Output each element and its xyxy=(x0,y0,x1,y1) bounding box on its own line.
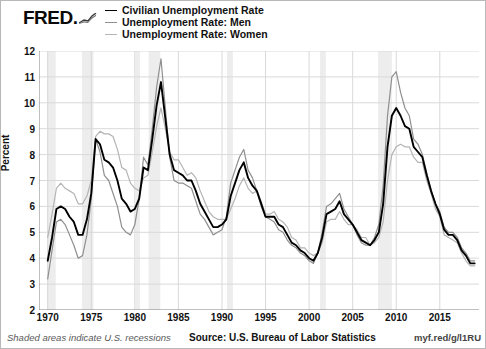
x-tick-label: 2015 xyxy=(429,312,451,323)
y-tick-label: 5 xyxy=(17,227,35,238)
trend-up-icon xyxy=(79,13,97,24)
y-axis-label: Percent xyxy=(0,135,11,172)
x-tick-label: 1970 xyxy=(37,312,59,323)
recession-note: Shaded areas indicate U.S. recessions xyxy=(7,332,171,343)
chart-legend: Civilian Unemployment RateUnemployment R… xyxy=(105,4,268,41)
legend-label: Unemployment Rate: Women xyxy=(122,28,268,40)
x-tick-label: 2000 xyxy=(298,312,320,323)
y-tick-label: 9 xyxy=(17,123,35,134)
legend-item: Civilian Unemployment Rate xyxy=(105,4,268,16)
x-tick-label: 1980 xyxy=(124,312,146,323)
chart-footer: Shaded areas indicate U.S. recessions So… xyxy=(1,332,486,348)
y-tick-label: 6 xyxy=(17,201,35,212)
x-tick-label: 2005 xyxy=(342,312,364,323)
y-tick-label: 11 xyxy=(17,71,35,82)
y-tick-label: 3 xyxy=(17,279,35,290)
plot-canvas xyxy=(39,51,479,310)
x-tick-label: 1990 xyxy=(211,312,233,323)
y-tick-label: 2 xyxy=(17,305,35,316)
series-line xyxy=(48,82,475,263)
x-tick-label: 2010 xyxy=(385,312,407,323)
legend-swatch xyxy=(105,34,117,35)
series-line xyxy=(48,59,475,279)
x-tick-label: 1985 xyxy=(167,312,189,323)
y-tick-label: 10 xyxy=(17,97,35,108)
short-url: myf.red/g/l1RU xyxy=(414,332,481,343)
y-tick-label: 8 xyxy=(17,149,35,160)
y-tick-label: 4 xyxy=(17,253,35,264)
legend-label: Civilian Unemployment Rate xyxy=(122,4,264,16)
plot-area xyxy=(39,51,479,310)
x-axis-ticks: 1970197519801985199019952000200520102015 xyxy=(39,312,479,326)
legend-swatch xyxy=(105,22,117,23)
legend-item: Unemployment Rate: Women xyxy=(105,28,268,40)
fred-chart: FRED. Civilian Unemployment RateUnemploy… xyxy=(0,0,486,349)
y-axis-ticks: 23456789101112 xyxy=(17,51,35,310)
chart-header: FRED. Civilian Unemployment RateUnemploy… xyxy=(1,1,486,45)
legend-label: Unemployment Rate: Men xyxy=(122,16,251,28)
source-note: Source: U.S. Bureau of Labor Statistics xyxy=(189,332,376,343)
y-tick-label: 7 xyxy=(17,175,35,186)
fred-logo: FRED. xyxy=(23,7,78,29)
y-tick-label: 12 xyxy=(17,46,35,57)
x-tick-label: 1975 xyxy=(80,312,102,323)
legend-item: Unemployment Rate: Men xyxy=(105,16,268,28)
x-tick-label: 1995 xyxy=(254,312,276,323)
legend-swatch xyxy=(105,10,117,11)
